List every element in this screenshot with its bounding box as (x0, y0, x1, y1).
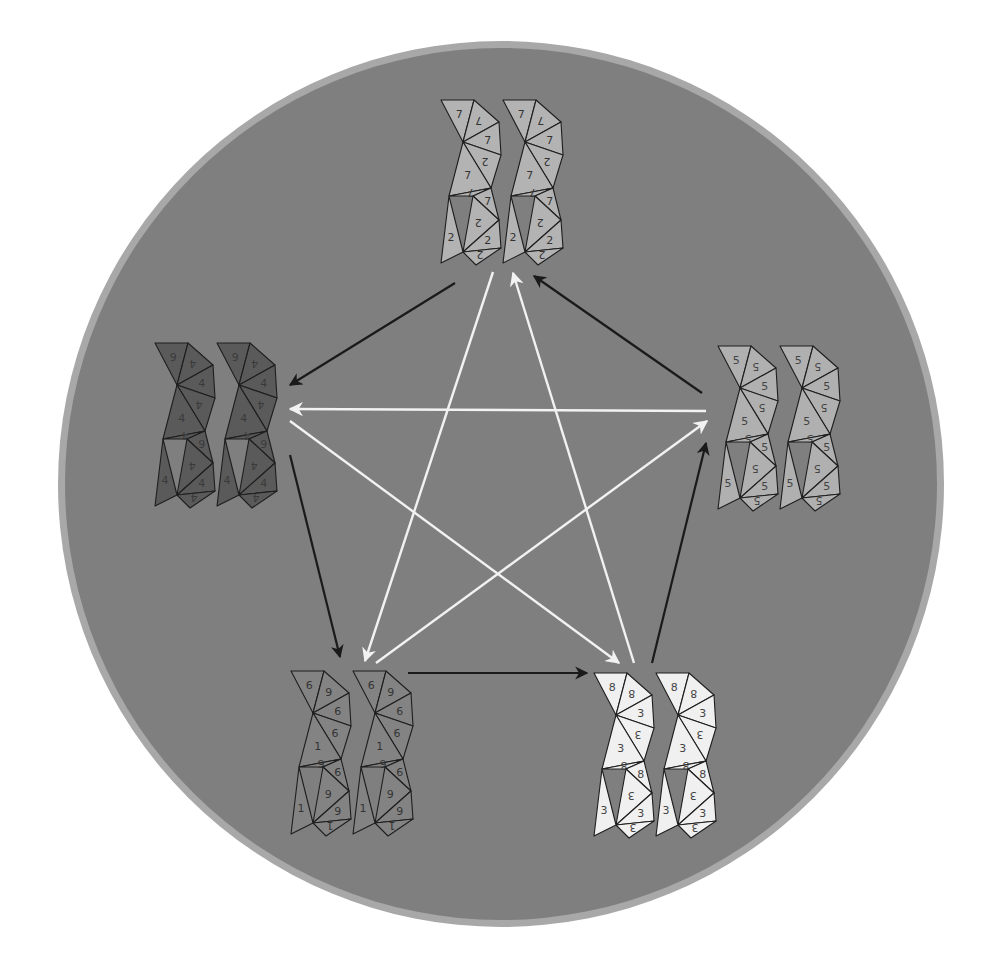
face-number: 3 (630, 821, 637, 834)
face-number: 6 (387, 685, 394, 698)
face-number: 3 (699, 707, 706, 720)
face-number: 6 (334, 705, 341, 718)
face-number: 1 (360, 802, 367, 815)
face-number: 5 (803, 415, 810, 428)
face-number: 7 (537, 114, 544, 127)
face-number: 2 (546, 234, 553, 247)
face-number: 8 (671, 681, 678, 694)
face-number: 8 (637, 768, 644, 781)
face-number: 9 (260, 438, 267, 451)
face-number: 2 (539, 248, 546, 261)
face-number: 5 (725, 477, 732, 490)
face-number: 2 (510, 231, 517, 244)
face-number: 5 (823, 441, 830, 454)
face-number: 5 (823, 380, 830, 393)
face-number: 6 (396, 766, 403, 779)
diagram-canvas: 7772777222277727772222944444944449444449… (0, 0, 984, 970)
face-number: 6 (387, 787, 394, 800)
face-number: 9 (170, 351, 177, 364)
face-number: 4 (196, 398, 203, 411)
face-number: 5 (752, 360, 759, 373)
face-number: 5 (759, 401, 766, 414)
face-number: 9 (332, 726, 339, 739)
face-number: 6 (306, 679, 313, 692)
face-number: 3 (679, 742, 686, 755)
face-number: 5 (814, 360, 821, 373)
face-number: 3 (601, 804, 608, 817)
face-number: 5 (741, 415, 748, 428)
face-number: 9 (232, 351, 239, 364)
face-number: 5 (761, 380, 768, 393)
face-number: 4 (260, 377, 267, 390)
face-number: 6 (368, 679, 375, 692)
face-number: 5 (787, 477, 794, 490)
face-number: 1 (327, 819, 334, 832)
face-number: 4 (162, 474, 169, 487)
face-number: 6 (396, 705, 403, 718)
face-number: 3 (617, 742, 624, 755)
face-number: 4 (189, 459, 196, 472)
face-number: 9 (198, 438, 205, 451)
face-number: 8 (699, 768, 706, 781)
face-number: 3 (635, 728, 642, 741)
face-number: 2 (475, 216, 482, 229)
face-number: 7 (484, 195, 491, 208)
face-number: 2 (477, 248, 484, 261)
face-number: 3 (628, 789, 635, 802)
face-number: 5 (816, 494, 823, 507)
face-number: 5 (761, 480, 768, 493)
face-number: 4 (251, 459, 258, 472)
face-number: 2 (482, 155, 489, 168)
face-number: 3 (663, 804, 670, 817)
face-number: 5 (795, 354, 802, 367)
face-number: 1 (389, 819, 396, 832)
face-number: 1 (376, 740, 383, 753)
face-number: 4 (198, 377, 205, 390)
face-number: 5 (733, 354, 740, 367)
face-number: 8 (628, 687, 635, 700)
face-number: 7 (484, 134, 491, 147)
face-number: 7 (456, 108, 463, 121)
face-number: 9 (396, 805, 403, 818)
face-number: 7 (546, 195, 553, 208)
face-number: 7 (475, 114, 482, 127)
face-number: 4 (189, 357, 196, 370)
face-number: 2 (448, 231, 455, 244)
face-number: 5 (821, 401, 828, 414)
face-number: 3 (637, 807, 644, 820)
face-number: 4 (260, 477, 267, 490)
face-number: 3 (699, 807, 706, 820)
face-number: 5 (752, 462, 759, 475)
face-number: 5 (814, 462, 821, 475)
face-number: 8 (609, 681, 616, 694)
face-number: 4 (198, 477, 205, 490)
face-number: 5 (761, 441, 768, 454)
face-number: 3 (690, 789, 697, 802)
face-number: 7 (526, 169, 533, 182)
face-number: 4 (251, 357, 258, 370)
face-number: 4 (224, 474, 231, 487)
face-number: 4 (258, 398, 265, 411)
face-number: 1 (314, 740, 321, 753)
face-number: 8 (690, 687, 697, 700)
face-number: 4 (191, 491, 198, 504)
face-number: 4 (253, 491, 260, 504)
face-number: 6 (334, 766, 341, 779)
face-number: 5 (823, 480, 830, 493)
face-number: 2 (484, 234, 491, 247)
face-number: 3 (637, 707, 644, 720)
face-number: 4 (240, 412, 247, 425)
face-number: 6 (325, 787, 332, 800)
face-number: 2 (537, 216, 544, 229)
face-number: 1 (298, 802, 305, 815)
face-number: 9 (334, 805, 341, 818)
face-number: 6 (325, 685, 332, 698)
face-number: 4 (178, 412, 185, 425)
face-number: 5 (754, 494, 761, 507)
face-number: 7 (464, 169, 471, 182)
face-number: 3 (692, 821, 699, 834)
face-number: 9 (394, 726, 401, 739)
face-number: 2 (544, 155, 551, 168)
face-number: 3 (697, 728, 704, 741)
face-number: 7 (546, 134, 553, 147)
